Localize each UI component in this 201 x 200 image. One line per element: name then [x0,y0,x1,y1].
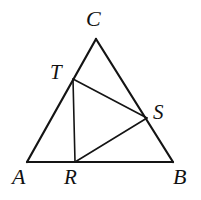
vertex-label-A: A [12,166,25,188]
geometry-figure: C T S A R B [0,0,201,200]
edge-TR [73,79,75,162]
vertex-label-T: T [50,62,62,83]
edge-TS [73,79,147,118]
vertex-label-C: C [86,8,101,30]
vertex-label-B: B [173,166,186,188]
vertex-label-R: R [64,167,77,188]
vertex-label-S: S [153,102,164,123]
edge-RS [75,118,147,162]
edge-AC [27,39,96,162]
